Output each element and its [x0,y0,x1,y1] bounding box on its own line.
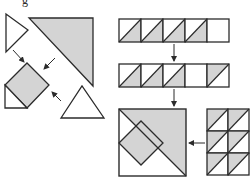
arrow-to-diamond-se-icon [52,92,61,101]
strip-cell-2 [141,64,163,87]
cropped-title-fragment: g [22,0,28,7]
strip-cell-6 [228,153,249,175]
strip-cell-5 [207,64,229,87]
strip-cell-5 [207,19,229,42]
strip-cell-2 [141,19,163,42]
bottom-setting-triangle [61,86,104,118]
strip-cell-3 [207,131,228,153]
strip-cell-1 [119,19,141,42]
strip-cell-4 [185,19,207,42]
strip-cell-3 [163,19,185,42]
quilt-diagram-canvas: g [0,0,250,182]
arrow-to-diamond-nw-icon [13,50,24,62]
strip-cell-1 [207,109,228,131]
triangle-grid [207,109,249,175]
strip-row-1 [119,19,229,42]
strip-cell-1 [119,64,141,87]
left-setting-triangle [6,14,28,52]
strip-cell-2 [228,109,249,131]
strip-cell-4 [185,64,207,87]
finished-block [119,109,186,176]
strip-row-2 [119,64,229,87]
left-assembly-group [5,14,104,118]
strip-cell-5 [207,153,228,175]
strip-cell-4 [228,131,249,153]
arrow-to-diamond-ne-icon [44,58,55,69]
strip-cell-3 [163,64,185,87]
